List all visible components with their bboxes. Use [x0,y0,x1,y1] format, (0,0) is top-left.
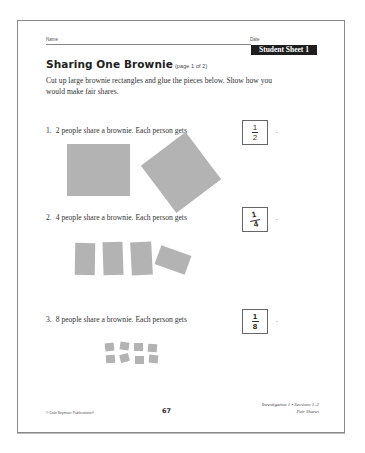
period: . [276,127,278,135]
question-text: 2 people share a brownie. Each person ge… [56,126,187,135]
fraction-answer: 1 2 [252,124,258,142]
period: . [276,316,278,324]
page-title: Sharing One Brownie(page 1 of 2) [46,58,207,70]
brownie-piece [135,356,144,364]
denominator: 8 [253,323,257,331]
footer-unit-info: Investigation 1 • Sessions 1–2 Fair Shar… [262,402,319,415]
title-main: Sharing One Brownie [46,58,173,70]
question-number: 3. [46,315,52,324]
period: . [276,214,278,222]
answer-box-3[interactable]: 1 8 [242,309,268,334]
fraction-answer: 1 8 [252,313,259,331]
question-3: 3.8 people share a brownie. Each person … [46,315,187,324]
copyright: © Dale Seymour Publications® [46,411,94,415]
question-text: 8 people share a brownie. Each person ge… [56,315,187,324]
question-number: 1. [46,126,52,135]
page-number: 67 [162,407,171,415]
numerator: 1 [251,210,257,219]
student-sheet-badge: Student Sheet 1 [251,45,317,55]
brownie-piece [105,343,115,352]
brownie-piece [75,243,96,275]
brownie-piece [67,144,130,196]
denominator: 2 [253,134,257,142]
title-sub: (page 1 of 2) [175,63,208,69]
date-label: Date [250,37,260,42]
investigation-label: Investigation 1 • Sessions 1–2 [262,402,319,409]
numerator: 1 [253,124,257,132]
brownie-piece [102,242,123,276]
instructions: Cut up large brownie rectangles and glue… [46,76,276,97]
denominator: 4 [253,220,259,229]
question-1: 1.2 people share a brownie. Each person … [46,126,187,135]
numerator: 1 [253,313,257,321]
unit-label: Fair Shares [262,409,319,416]
fraction-answer: 1 4 [248,210,262,230]
answer-box-1[interactable]: 1 2 [242,120,268,145]
brownie-piece [134,343,143,351]
brownie-piece [106,355,115,363]
brownie-piece [148,344,158,353]
answer-box-2[interactable]: 1 4 [242,207,268,232]
name-label: Name [46,37,58,42]
brownie-piece [149,355,159,364]
brownie-piece [130,241,153,275]
question-text: 4 people share a brownie. Each person ge… [56,213,187,222]
name-line [46,44,251,45]
question-number: 2. [46,213,52,222]
question-2: 2.4 people share a brownie. Each person … [46,213,187,222]
brownie-piece [119,341,129,350]
